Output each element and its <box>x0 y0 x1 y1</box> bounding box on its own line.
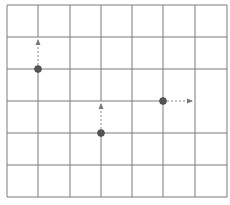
figure-caption <box>0 199 230 205</box>
node-3 <box>160 98 167 105</box>
node-1 <box>35 66 42 73</box>
node-2 <box>98 130 105 137</box>
grid-lines <box>7 5 227 197</box>
direction-arrows <box>38 40 192 133</box>
grid-diagram <box>0 0 230 205</box>
